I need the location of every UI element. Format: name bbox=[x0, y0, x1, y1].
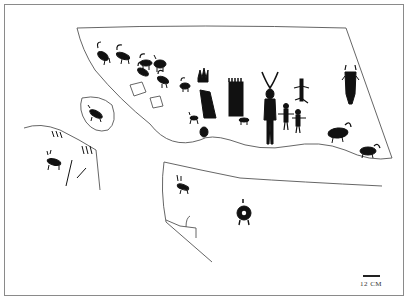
ledge-quadruped-icon bbox=[46, 150, 61, 170]
bighorn-sheep-5-icon bbox=[154, 55, 166, 72]
bighorn-sheep-8-icon bbox=[328, 123, 351, 143]
boulder-quadruped-icon bbox=[88, 105, 104, 122]
small-animal-2-icon bbox=[239, 118, 249, 125]
bighorn-sheep-2-icon bbox=[115, 45, 130, 64]
fringed-block-icon bbox=[229, 78, 243, 116]
rect-mark-1 bbox=[130, 82, 146, 96]
lizard-figure-icon bbox=[294, 79, 309, 103]
bighorn-sheep-1-icon bbox=[96, 42, 110, 65]
lower-quadruped-icon bbox=[177, 175, 190, 194]
lower-panel-outline bbox=[164, 162, 382, 186]
small-quadruped-icon bbox=[189, 112, 198, 124]
scale-bar-label: 12 CM bbox=[356, 280, 386, 288]
horned-anthropomorph-icon bbox=[262, 72, 278, 144]
bighorn-sheep-7-icon bbox=[180, 78, 190, 92]
scale-bar: 12 CM bbox=[356, 275, 386, 288]
bighorn-sheep-6-icon bbox=[156, 70, 169, 88]
left-ledge-outline bbox=[24, 125, 100, 190]
small-anthropomorph-2-icon bbox=[292, 110, 306, 134]
blob-icon bbox=[200, 127, 208, 137]
lower-panel-left-edge bbox=[162, 162, 212, 262]
scale-bar-line bbox=[363, 275, 380, 277]
tailed-anthropomorph-icon bbox=[342, 65, 359, 104]
hand-print-icon bbox=[198, 68, 216, 118]
hook-mark bbox=[186, 216, 190, 227]
small-anthropomorph-1-icon bbox=[278, 104, 294, 131]
groove-marks bbox=[52, 131, 92, 186]
motifs bbox=[46, 42, 380, 225]
bighorn-sheep-9-icon bbox=[360, 144, 380, 158]
concentric-shield-figure-icon bbox=[237, 199, 251, 225]
rect-mark-2 bbox=[150, 96, 163, 108]
petroglyph-drawing bbox=[0, 0, 410, 305]
